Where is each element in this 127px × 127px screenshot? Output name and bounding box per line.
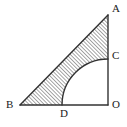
geometry-figure: A B C D O — [0, 0, 127, 127]
vertex-label-a: A — [112, 3, 120, 14]
vertex-label-d: D — [60, 108, 68, 119]
vertex-label-o: O — [112, 99, 120, 110]
vertex-label-b: B — [6, 99, 13, 110]
vertex-label-c: C — [112, 50, 119, 61]
